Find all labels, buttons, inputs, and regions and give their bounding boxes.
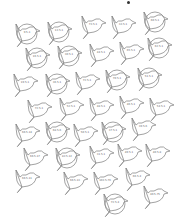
bird-label: 66.5-11 [19,177,35,180]
bird-outline-icon [54,44,84,70]
bird-worksheet: 9.5-113.5-173.5-133.5-160.5-116.5-130.5-… [0,0,174,217]
bird-outline-icon [56,96,86,122]
bird-label: 51.5-1 [141,75,157,78]
bird-outline-icon [128,116,158,142]
bird-outline-icon [140,184,170,210]
bird-label: 65.5-1 [123,49,139,52]
bird-label: 36.5-1 [49,81,65,84]
bird-cell: 73.5-1 [78,14,108,40]
bird-cell: 49.5-1 [114,142,144,168]
bird-cell: 44.5-1 [86,42,116,68]
bird-cell: 48.5-1 [86,96,116,122]
bird-outline-icon [72,70,102,96]
bird-label: 49.5-1 [121,151,137,154]
bird-label: 60.5-1 [147,19,163,22]
bird-label: 16.5-1 [29,55,45,58]
bird-outline-icon [60,170,90,196]
bird-label: 40.5-8 [149,151,165,154]
bird-outline-icon [78,14,108,40]
bird-cell: 68.5-6 [42,120,72,146]
bird-cell: 51.5-1 [134,66,164,92]
bird-outline-icon [86,42,116,68]
bird-cell: 72.5-4 [100,192,130,217]
bird-label: 54.5-1 [153,105,169,108]
bird-label: 62.5-1 [151,45,167,48]
bird-outline-icon [100,192,130,217]
bird-outline-icon [108,14,138,40]
bird-outline-icon [42,120,72,146]
bird-outline-icon [102,68,132,94]
bird-outline-icon [116,40,146,66]
bird-cell: 33.5-1 [108,14,138,40]
bird-cell: 13.5-1 [44,20,74,46]
bird-outline-icon [86,144,116,170]
bird-cell: 66.5-14 [12,122,42,148]
bird-cell: 30.5-1 [54,44,84,70]
header-line [30,2,130,4]
bird-label: 73.5-1 [85,23,101,26]
bird-outline-icon [142,142,172,168]
bird-label: 13.5-1 [51,29,67,32]
bird-outline-icon [44,20,74,46]
bird-outline-icon [42,72,72,98]
bird-label: 66.5-13 [67,179,83,182]
bird-label: 66.5-17 [27,155,43,158]
bird-label: 103.5-76 [97,179,113,182]
bird-cell: 36.5-1 [42,72,72,98]
bird-label: 33.5-1 [115,23,131,26]
bird-cell: 62.5-1 [144,36,174,62]
bird-cell: 39.5-6 [128,116,158,142]
bird-cell: 60.5-1 [140,10,170,36]
bird-cell: 40.5-8 [142,142,172,168]
bird-outline-icon [22,46,52,72]
bird-label: 82.5-12 [59,155,75,158]
bird-label: 52.5-1 [63,105,79,108]
bird-label: 31.5-1 [93,153,109,156]
bird-label: 50.5-1 [77,131,93,134]
bird-outline-icon [52,146,82,172]
bird-label: 19.5-1 [17,81,33,84]
bird-outline-icon [140,10,170,36]
bird-label: 37.5-1 [105,129,121,132]
bird-outline-icon [12,168,42,194]
bird-outline-icon [10,72,40,98]
bird-cell: 72.5-1 [72,70,102,96]
bird-label: 30.5-1 [61,53,77,56]
bird-label: 72.5-1 [79,79,95,82]
bird-cell: 19.5-1 [10,72,40,98]
bird-label: 46.5-1 [123,103,139,106]
bird-label: 48.5-1 [93,105,109,108]
bird-cell: 66.5-11 [12,168,42,194]
bird-label: 66.5-4 [129,175,145,178]
bird-label: 44.5-1 [93,51,109,54]
bird-cell: 82.5-12 [52,146,82,172]
bird-label: 70.5-1 [109,77,125,80]
bird-outline-icon [86,96,116,122]
bird-outline-icon [144,36,174,62]
bird-outline-icon [114,142,144,168]
bird-label: 40.5-75 [147,193,163,196]
bird-label: 39.5-6 [135,125,151,128]
bird-cell: 52.5-1 [56,96,86,122]
bird-cell: 16.5-1 [22,46,52,72]
bird-cell: 40.5-75 [140,184,170,210]
bird-cell: 66.5-13 [60,170,90,196]
bird-cell: 70.5-1 [102,68,132,94]
bird-outline-icon [12,22,42,48]
bird-cell: 9.5-1 [12,22,42,48]
bird-cell: 65.5-1 [116,40,146,66]
bird-outline-icon [134,66,164,92]
bird-label: 68.5-6 [49,129,65,132]
header-dot [127,1,130,4]
bird-label: 72.5-1 [31,107,47,110]
bird-outline-icon [12,122,42,148]
bird-label: 66.5-14 [19,131,35,134]
bird-cell: 31.5-1 [86,144,116,170]
bird-label: 9.5-1 [19,31,35,34]
bird-label: 72.5-4 [107,201,123,204]
